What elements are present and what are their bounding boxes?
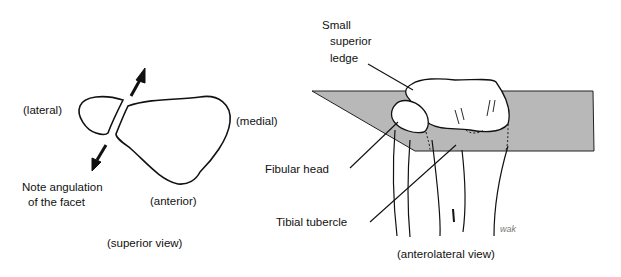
caption-superior-view: (superior view) — [107, 236, 182, 250]
label-note-line2: of the facet — [28, 195, 85, 209]
diagram-artwork — [0, 0, 621, 277]
label-anterior: (anterior) — [150, 194, 197, 208]
anterolateral-view-drawing — [312, 64, 594, 237]
medial-facet-outline — [116, 96, 230, 184]
label-medial: (medial) — [236, 114, 278, 128]
superior-view-drawing — [79, 96, 230, 184]
lateral-facet-outline — [79, 97, 123, 135]
label-lateral: (lateral) — [23, 103, 62, 117]
label-ledge-line3: ledge — [330, 51, 358, 65]
label-fibular-head: Fibular head — [265, 162, 329, 176]
caption-anterolateral-view: (anterolateral view) — [397, 247, 495, 261]
label-ledge-line1: Small — [322, 18, 351, 32]
artist-signature: wak — [500, 222, 516, 236]
label-ledge-line2: superior — [330, 34, 372, 48]
label-tibial-tubercle: Tibial tubercle — [276, 215, 347, 229]
label-note-line1: Note angulation — [22, 180, 103, 194]
